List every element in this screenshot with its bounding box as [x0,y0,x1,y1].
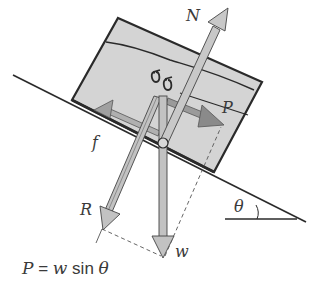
label-weight: w [175,244,189,260]
resultant-tick [96,229,102,243]
incline-force-diagram: N P f R w θ P = w sin θ [0,0,312,281]
formula: P = w sin θ [22,258,109,279]
formula-func: sin [67,259,98,278]
formula-lhs: P [22,258,33,278]
label-applied-force: P [222,100,233,116]
label-resultant: R [80,202,92,218]
contact-point [158,138,168,148]
formula-w: w [53,258,68,278]
angle-arc [256,205,258,219]
diagram-graphics [0,0,312,281]
label-friction: f [92,135,98,151]
formula-angle: θ [99,258,109,278]
label-normal-force: N [186,8,200,24]
label-angle: θ [234,199,244,215]
formula-equals: = [33,259,52,278]
